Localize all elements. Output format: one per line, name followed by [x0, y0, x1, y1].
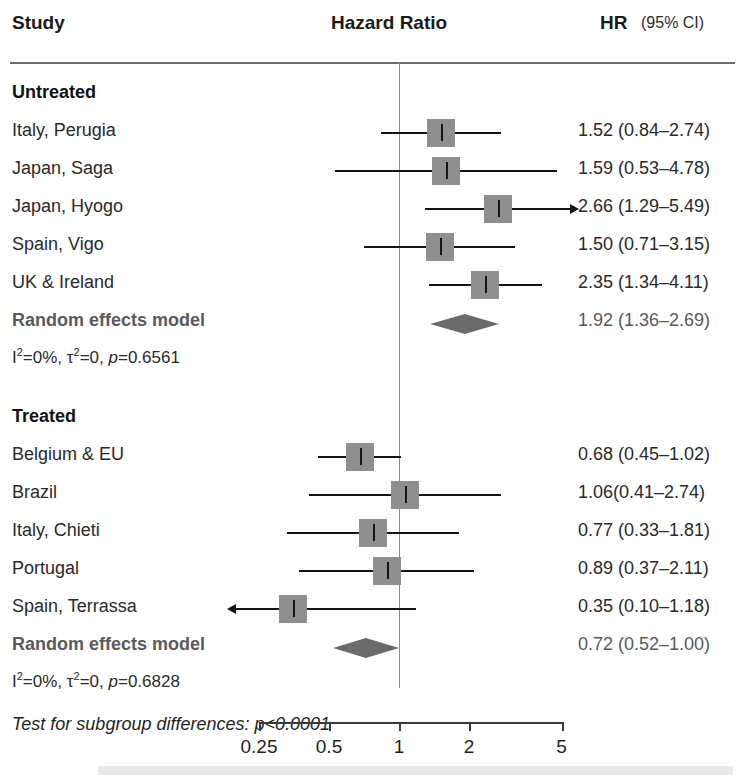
study-value: 2.35 (1.34–4.11) — [578, 272, 709, 293]
study-value: 1.06(0.41–2.74) — [578, 482, 705, 503]
ci-line — [236, 608, 416, 610]
study-label: UK & Ireland — [12, 272, 114, 293]
pooled-label: Random effects model — [12, 310, 205, 331]
axis-line — [259, 722, 562, 724]
reference-line — [399, 63, 400, 688]
study-label: Portugal — [12, 558, 79, 579]
study-label: Spain, Terrassa — [12, 596, 137, 617]
study-value: 1.52 (0.84–2.74) — [578, 120, 710, 141]
column-header-study: Study — [12, 12, 65, 34]
study-label: Italy, Perugia — [12, 120, 116, 141]
effect-point — [440, 238, 442, 255]
effect-point — [405, 486, 407, 503]
study-value: 0.68 (0.45–1.02) — [578, 444, 710, 465]
axis-tick-label: 5 — [556, 736, 567, 758]
effect-point — [485, 276, 487, 293]
ci-arrow-left — [227, 604, 236, 614]
group-heading-untreated: Untreated — [12, 82, 96, 103]
axis-tick-label: 0.25 — [241, 736, 278, 758]
study-value: 2.66 (1.29–5.49) — [578, 196, 710, 217]
heterogeneity-stats: I2=0%, τ2=0, p=0.6561 — [12, 346, 180, 368]
axis-tick-label: 0.5 — [316, 736, 342, 758]
header-divider — [10, 62, 735, 64]
effect-point — [446, 162, 448, 179]
study-value: 1.50 (0.71–3.15) — [578, 234, 710, 255]
pooled-diamond — [430, 314, 499, 334]
ci-arrow-right — [570, 204, 579, 214]
axis-tick — [469, 722, 471, 731]
effect-point — [441, 124, 443, 141]
column-header-ci: (95% CI) — [641, 14, 704, 32]
forest-plot-figure: Study Hazard Ratio HR (95% CI) Untreated… — [0, 0, 745, 779]
pooled-label: Random effects model — [12, 634, 205, 655]
effect-point — [373, 524, 375, 541]
effect-point — [498, 200, 500, 217]
pooled-value: 1.92 (1.36–2.69) — [578, 310, 710, 331]
axis-tick — [329, 722, 331, 731]
axis-tick — [399, 722, 401, 731]
study-label: Japan, Saga — [12, 158, 113, 179]
study-label: Belgium & EU — [12, 444, 124, 465]
study-label: Spain, Vigo — [12, 234, 104, 255]
pooled-diamond — [333, 638, 399, 658]
group-heading-treated: Treated — [12, 406, 76, 427]
axis-tick — [259, 722, 261, 731]
column-header-hazard-ratio: Hazard Ratio — [331, 12, 447, 34]
study-label: Brazil — [12, 482, 57, 503]
study-value: 0.89 (0.37–2.11) — [578, 558, 709, 579]
pooled-value: 0.72 (0.52–1.00) — [578, 634, 710, 655]
axis-tick — [562, 722, 564, 731]
subgroup-test-text: Test for subgroup differences: p<0.0001 — [12, 714, 330, 735]
axis-tick-label: 1 — [394, 736, 405, 758]
column-header-hr: HR — [600, 12, 627, 34]
effect-point — [360, 448, 362, 465]
axis-tick-label: 2 — [464, 736, 475, 758]
study-label: Italy, Chieti — [12, 520, 100, 541]
study-value: 0.35 (0.10–1.18) — [578, 596, 710, 617]
bottom-band — [98, 766, 733, 775]
effect-point — [293, 600, 295, 617]
effect-point — [387, 562, 389, 579]
study-value: 0.77 (0.33–1.81) — [578, 520, 710, 541]
study-label: Japan, Hyogo — [12, 196, 123, 217]
study-value: 1.59 (0.53–4.78) — [578, 158, 710, 179]
heterogeneity-stats: I2=0%, τ2=0, p=0.6828 — [12, 670, 180, 692]
